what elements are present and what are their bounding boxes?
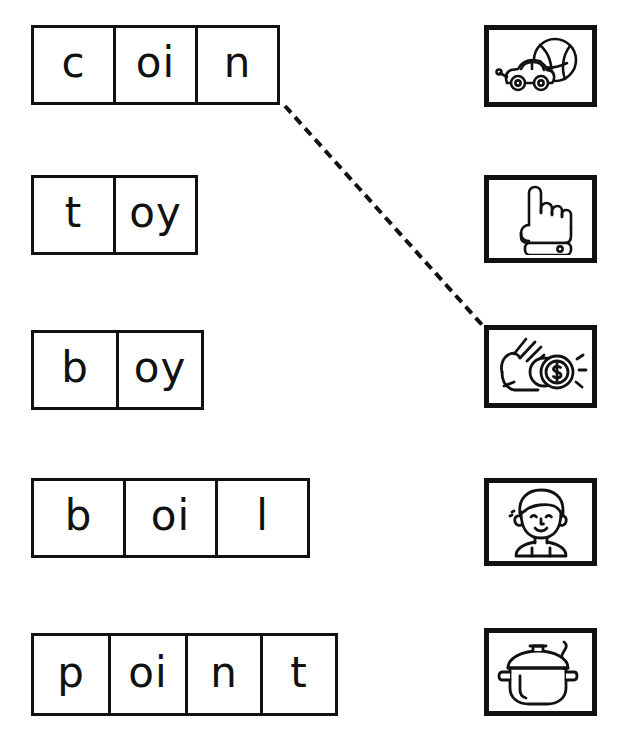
pointing-hand-icon — [508, 183, 574, 255]
letter-cell[interactable]: l — [215, 478, 310, 558]
worksheet-page: c oi n t oy b oy b oi l p oi n t — [0, 0, 619, 746]
boy-face-icon — [502, 486, 580, 558]
toy-car-and-ball-icon — [495, 35, 587, 97]
letter-cell[interactable]: n — [195, 25, 280, 105]
word-row-toy[interactable]: t oy — [31, 175, 198, 255]
letter-cell[interactable]: n — [185, 633, 263, 716]
toy-picture[interactable] — [484, 25, 597, 107]
letter-cell[interactable]: c — [31, 25, 116, 105]
letter-cell[interactable]: t — [260, 633, 338, 716]
letter-cell[interactable]: b — [31, 330, 119, 410]
letter-cell[interactable]: oi — [123, 478, 218, 558]
coin-picture[interactable] — [484, 325, 597, 408]
letter-cell[interactable]: p — [31, 633, 111, 716]
letter-cell[interactable]: oy — [116, 330, 204, 410]
word-row-point[interactable]: p oi n t — [31, 633, 338, 716]
point-picture[interactable] — [484, 175, 597, 263]
steaming-pot-icon — [496, 636, 586, 708]
word-row-boil[interactable]: b oi l — [31, 478, 310, 558]
word-row-boy[interactable]: b oy — [31, 330, 204, 410]
letter-cell[interactable]: oi — [113, 25, 198, 105]
connector-coin-to-coin-picture[interactable] — [285, 106, 484, 327]
letter-cell[interactable]: oi — [108, 633, 188, 716]
boil-picture[interactable] — [484, 628, 597, 716]
word-row-coin[interactable]: c oi n — [31, 25, 280, 105]
letter-cell[interactable]: t — [31, 175, 116, 255]
boy-picture[interactable] — [484, 478, 597, 566]
letter-cell[interactable]: b — [31, 478, 126, 558]
hand-holding-coin-icon — [494, 334, 588, 400]
letter-cell[interactable]: oy — [113, 175, 198, 255]
